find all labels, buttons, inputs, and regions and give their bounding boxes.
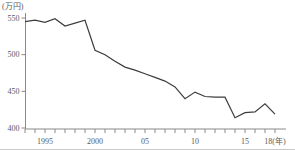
x-tick-label: 15 [241, 137, 249, 146]
y-tick-label: 550 [8, 14, 20, 23]
axes [22, 13, 287, 133]
y-tick-label: 400 [8, 124, 20, 133]
unit-label: (万円) [2, 2, 24, 11]
line-chart: 5505004504001995200005101518(年)(万円) [0, 0, 295, 150]
x-tick-label: 10 [191, 137, 199, 146]
y-tick-label: 500 [8, 50, 20, 59]
x-tick-label: 1995 [37, 137, 53, 146]
y-tick-label: 450 [8, 87, 20, 96]
x-tick-label: 18(年) [264, 136, 286, 146]
x-tick-label: 2000 [87, 137, 103, 146]
data-line [25, 19, 275, 118]
line-chart-figure: 5505004504001995200005101518(年)(万円) [0, 0, 295, 150]
x-tick-label: 05 [141, 137, 149, 146]
